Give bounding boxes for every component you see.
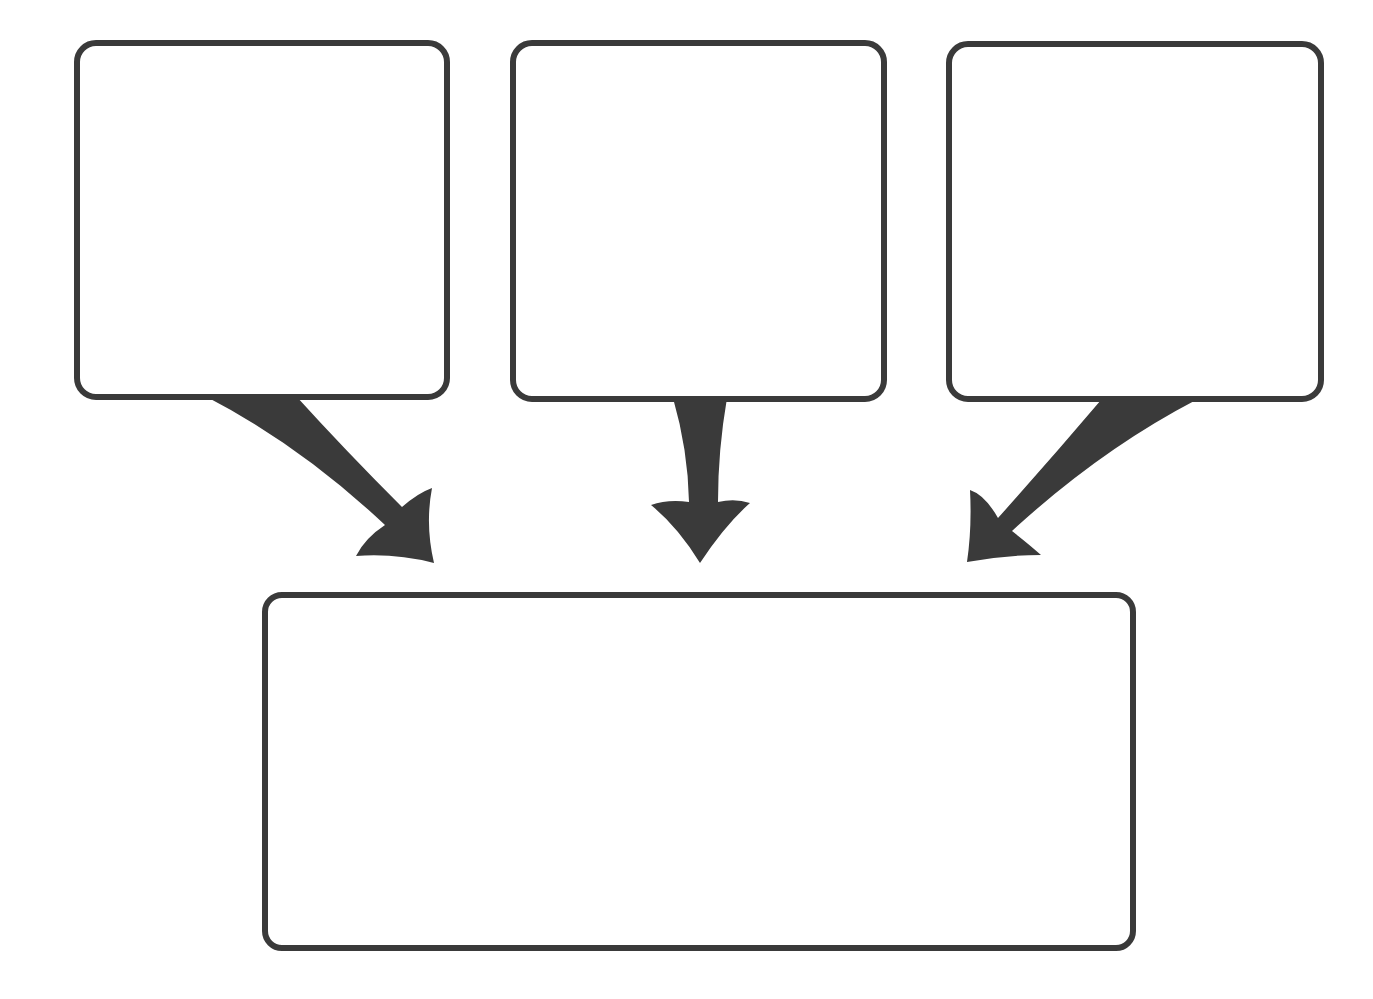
output-box-bottom[interactable] <box>262 592 1136 951</box>
diagram-canvas <box>0 0 1373 999</box>
arrow-left-to-bottom-icon <box>205 396 434 563</box>
input-box-left[interactable] <box>74 40 450 400</box>
input-box-right[interactable] <box>946 41 1324 402</box>
input-box-middle[interactable] <box>510 40 887 402</box>
arrow-right-to-bottom-icon <box>967 400 1196 562</box>
arrow-middle-to-bottom-icon <box>651 398 750 563</box>
